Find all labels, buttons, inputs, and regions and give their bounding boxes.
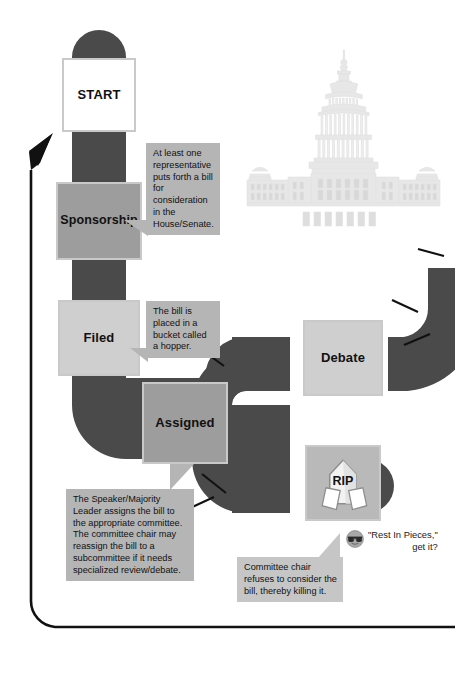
callout-rip-tail <box>318 533 340 558</box>
callout-assigned-text: The Speaker/Majority Leader assigns the … <box>73 494 182 575</box>
callout-filed: The bill is placed in a bucket called a … <box>146 301 220 358</box>
infographic-canvas: How a Bill Becomes a Law (partial flowch… <box>0 0 455 677</box>
callout-notes: At least one representative puts forth a… <box>0 0 455 677</box>
callout-sponsorship-tail <box>124 220 148 236</box>
callout-sponsorship: At least one representative puts forth a… <box>146 143 220 235</box>
callout-filed-tail <box>130 348 148 362</box>
sunglasses-face-icon <box>346 530 364 548</box>
callout-rip: Committee chair refuses to consider the … <box>237 557 343 602</box>
callout-sponsorship-text: At least one representative puts forth a… <box>153 148 214 229</box>
callout-assigned-tail <box>170 464 194 490</box>
rip-joke-annotation: "Rest In Pieces," get it? <box>346 529 446 553</box>
callout-filed-text: The bill is placed in a bucket called a … <box>153 306 207 351</box>
rip-joke-text: "Rest In Pieces," get it? <box>368 529 438 553</box>
callout-assigned: The Speaker/Majority Leader assigns the … <box>66 489 194 581</box>
callout-rip-text: Committee chair refuses to consider the … <box>244 562 337 596</box>
